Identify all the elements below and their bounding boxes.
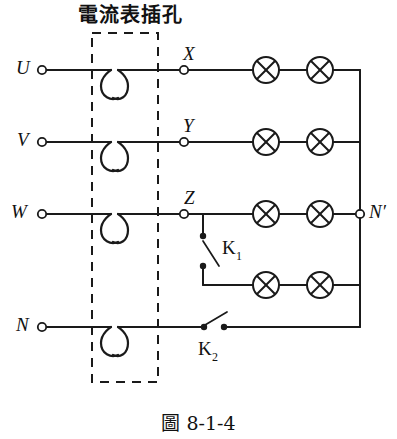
jack-arc-right-v bbox=[113, 142, 128, 171]
jack-arc-left-w bbox=[101, 214, 118, 243]
label-terminal-u: U bbox=[16, 57, 31, 78]
circuit-schematic: U V W N X Y Z N′ K 1 K 2 bbox=[0, 0, 397, 439]
lamp-row4-right bbox=[307, 272, 333, 298]
terminal-v[interactable] bbox=[38, 138, 46, 146]
terminal-z[interactable] bbox=[180, 210, 188, 218]
terminal-y[interactable] bbox=[180, 138, 188, 146]
label-switch-k2-subscript: 2 bbox=[212, 350, 218, 364]
jack-arc-left-v bbox=[101, 142, 118, 171]
lamp-row3-left bbox=[253, 201, 279, 227]
phase-row-v-y bbox=[38, 129, 360, 171]
jack-arc-left-n bbox=[101, 327, 118, 356]
lamp-row1-left bbox=[253, 57, 279, 83]
k2-contact-left bbox=[201, 324, 207, 330]
figure-caption: 圖 8-1-4 bbox=[0, 408, 397, 435]
label-terminal-y: Y bbox=[183, 115, 196, 136]
label-terminal-n-prime: N′ bbox=[368, 201, 387, 222]
terminal-u[interactable] bbox=[38, 66, 46, 74]
phase-row-u-x bbox=[38, 57, 360, 99]
label-terminal-v: V bbox=[17, 129, 31, 150]
terminal-n[interactable] bbox=[38, 323, 46, 331]
terminal-n-prime[interactable] bbox=[356, 210, 364, 218]
jack-arc-right-n bbox=[113, 327, 128, 356]
label-switch-k1-subscript: 1 bbox=[236, 249, 242, 263]
label-terminal-z: Z bbox=[184, 187, 195, 208]
label-terminal-n: N bbox=[15, 314, 30, 335]
jack-arc-right-u bbox=[113, 70, 128, 99]
k2-blade[interactable] bbox=[205, 312, 227, 325]
terminal-x[interactable] bbox=[180, 66, 188, 74]
k1-contact-top bbox=[200, 233, 206, 239]
label-terminal-w: W bbox=[11, 201, 29, 222]
lamp-row2-left bbox=[253, 129, 279, 155]
lamp-row1-right bbox=[307, 57, 333, 83]
label-switch-k1: K bbox=[222, 237, 236, 258]
circuit-figure: 電流表插孔 bbox=[0, 0, 397, 439]
lamp-row3-right bbox=[307, 201, 333, 227]
lamp-row4-left bbox=[253, 272, 279, 298]
label-terminal-x: X bbox=[182, 43, 196, 64]
terminal-w[interactable] bbox=[38, 210, 46, 218]
k1-blade[interactable] bbox=[203, 241, 219, 266]
lamp-row2-right bbox=[307, 129, 333, 155]
label-switch-k2: K bbox=[198, 338, 212, 359]
jack-arc-left-u bbox=[101, 70, 118, 99]
jack-arc-right-w bbox=[113, 214, 128, 243]
figure-caption-text: 圖 8-1-4 bbox=[161, 412, 235, 434]
